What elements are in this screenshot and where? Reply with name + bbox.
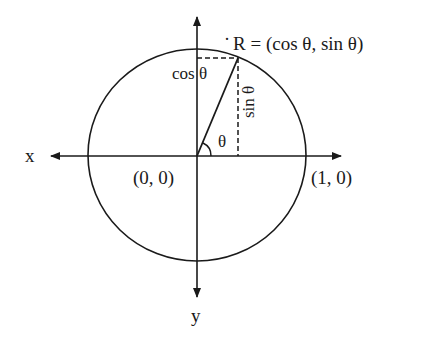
unit-circle-diagram: · R = (cos θ, sin θ) cos θ sin θ θ x y (… [0,0,448,341]
y-axis-label: y [191,305,201,326]
x-axis-label: x [25,145,35,166]
origin-label: (0, 0) [133,167,174,189]
angle-label: θ [218,132,226,151]
unit-point-label: (1, 0) [311,167,352,189]
angle-arc [203,143,211,156]
cos-label: cos θ [172,64,207,83]
point-r-label: R = (cos θ, sin θ) [233,33,363,55]
point-r-dot: · [224,29,230,49]
sin-label: sin θ [239,86,258,118]
